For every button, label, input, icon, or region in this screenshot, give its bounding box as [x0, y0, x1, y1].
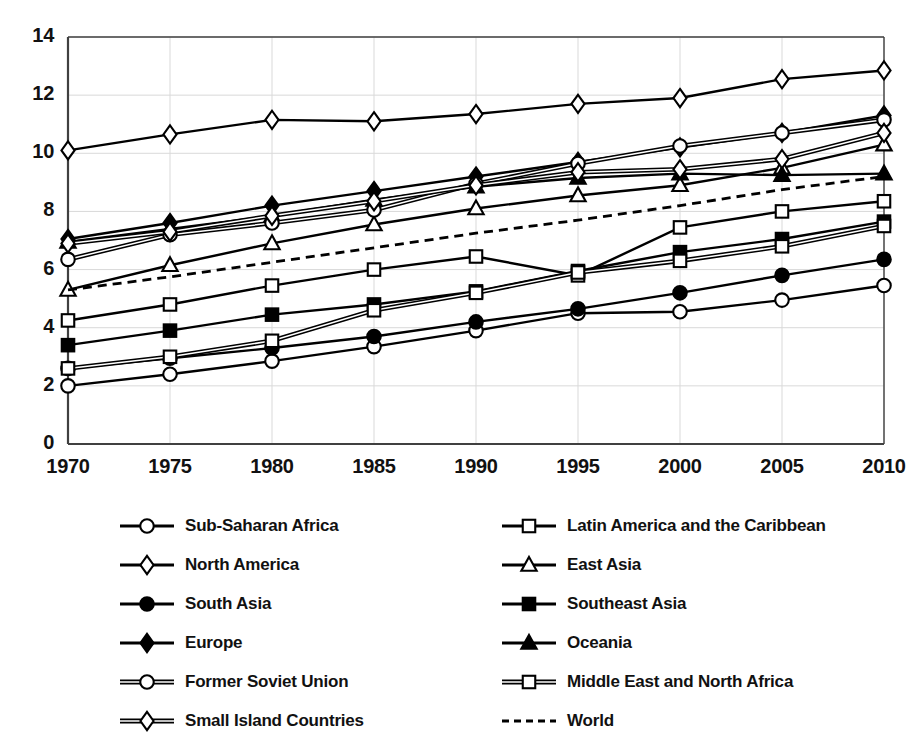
data-point-marker: [367, 112, 380, 130]
legend-marker-icon: [500, 593, 558, 615]
legend-item-label: Southeast Asia: [567, 594, 686, 614]
legend-marker-icon: [118, 593, 176, 615]
legend-item-oceania[interactable]: Oceania: [500, 623, 900, 662]
data-point-marker: [673, 286, 687, 300]
data-point-marker: [470, 287, 482, 299]
legend-item-former-soviet-union[interactable]: Former Soviet Union: [118, 662, 500, 701]
legend-line-swatch: [118, 593, 176, 615]
legend-line-swatch: [500, 554, 558, 576]
data-point-marker: [140, 633, 153, 651]
legend-marker-icon: [118, 632, 176, 654]
data-point-marker: [140, 675, 154, 689]
data-point-marker: [775, 293, 789, 307]
legend-item-label: Small Island Countries: [185, 711, 364, 731]
data-point-marker: [877, 253, 891, 267]
data-point-marker: [674, 255, 686, 267]
data-point-marker: [877, 124, 890, 142]
chart-root: 02468101214 1970197519801985199019952000…: [0, 0, 924, 742]
chart-plot-area: 02468101214 1970197519801985199019952000…: [0, 0, 924, 500]
data-point-marker: [469, 105, 482, 123]
legend-line-swatch: [118, 671, 176, 693]
data-point-marker: [164, 298, 176, 310]
legend-item-sub-saharan-africa[interactable]: Sub-Saharan Africa: [118, 506, 500, 545]
legend-marker-icon: [500, 710, 558, 732]
data-point-marker: [140, 519, 154, 533]
x-tick-label: 1980: [227, 455, 317, 478]
y-tick-label: 10: [8, 140, 54, 163]
data-point-marker: [163, 125, 176, 143]
y-tick-label: 8: [8, 198, 54, 221]
legend-item-small-island-countries[interactable]: Small Island Countries: [118, 701, 500, 740]
x-tick-label: 1975: [125, 455, 215, 478]
data-point-marker: [878, 195, 890, 207]
line-chart-svg: [0, 0, 924, 500]
legend-item-label: Sub-Saharan Africa: [185, 516, 339, 536]
data-point-marker: [62, 314, 74, 326]
legend-item-southeast-asia[interactable]: Southeast Asia: [500, 584, 900, 623]
legend-item-label: East Asia: [567, 555, 641, 575]
legend-item-label: Oceania: [567, 633, 632, 653]
data-point-marker: [775, 126, 789, 140]
data-point-marker: [775, 269, 789, 283]
data-point-marker: [674, 221, 686, 233]
legend-line-swatch: [118, 632, 176, 654]
data-point-marker: [62, 362, 74, 374]
data-point-marker: [877, 279, 891, 293]
legend-marker-icon: [500, 554, 558, 576]
x-tick-label: 2010: [839, 455, 924, 478]
data-point-marker: [776, 240, 788, 252]
data-point-marker: [265, 354, 279, 368]
data-point-marker: [266, 335, 278, 347]
legend-marker-icon: [500, 632, 558, 654]
legend-line-swatch: [500, 515, 558, 537]
legend-marker-icon: [118, 515, 176, 537]
data-point-marker: [877, 61, 890, 79]
legend-item-latin-america-and-the-caribbean[interactable]: Latin America and the Caribbean: [500, 506, 900, 545]
data-point-marker: [470, 250, 482, 262]
data-point-marker: [776, 205, 788, 217]
data-point-marker: [61, 379, 75, 393]
legend-item-south-asia[interactable]: South Asia: [118, 584, 500, 623]
data-point-marker: [164, 351, 176, 363]
data-point-marker: [571, 302, 585, 316]
legend-line-swatch: [118, 554, 176, 576]
legend-line-swatch: [500, 632, 558, 654]
legend-marker-icon: [118, 671, 176, 693]
x-tick-label: 1985: [329, 455, 419, 478]
legend-item-middle-east-and-north-africa[interactable]: Middle East and North Africa: [500, 662, 900, 701]
data-point-marker: [775, 70, 788, 88]
y-tick-label: 14: [8, 24, 54, 47]
legend-item-label: World: [567, 711, 614, 731]
legend-line-swatch: [500, 710, 558, 732]
data-point-marker: [368, 263, 380, 275]
data-point-marker: [523, 597, 535, 609]
data-point-marker: [523, 519, 535, 531]
legend-item-east-asia[interactable]: East Asia: [500, 545, 900, 584]
chart-legend: Sub-Saharan AfricaLatin America and the …: [0, 502, 924, 742]
data-point-marker: [140, 711, 153, 729]
x-tick-label: 1970: [23, 455, 113, 478]
data-point-marker: [673, 89, 686, 107]
legend-line-swatch: [118, 710, 176, 732]
data-point-marker: [62, 339, 74, 351]
legend-item-label: North America: [185, 555, 299, 575]
data-point-marker: [266, 308, 278, 320]
data-point-marker: [265, 111, 278, 129]
legend-item-world[interactable]: World: [500, 701, 900, 740]
y-tick-label: 12: [8, 82, 54, 105]
legend-item-label: Middle East and North Africa: [567, 672, 793, 692]
data-point-marker: [469, 315, 483, 329]
legend-item-label: Europe: [185, 633, 242, 653]
legend-grid: Sub-Saharan AfricaLatin America and the …: [118, 506, 918, 740]
y-tick-label: 0: [8, 431, 54, 454]
y-tick-label: 2: [8, 373, 54, 396]
legend-line-swatch: [500, 593, 558, 615]
data-point-marker: [61, 141, 74, 159]
data-point-marker: [367, 330, 381, 344]
data-point-marker: [673, 305, 687, 319]
legend-item-north-america[interactable]: North America: [118, 545, 500, 584]
legend-item-europe[interactable]: Europe: [118, 623, 500, 662]
data-point-marker: [140, 555, 153, 573]
legend-marker-icon: [500, 515, 558, 537]
x-tick-label: 1995: [533, 455, 623, 478]
